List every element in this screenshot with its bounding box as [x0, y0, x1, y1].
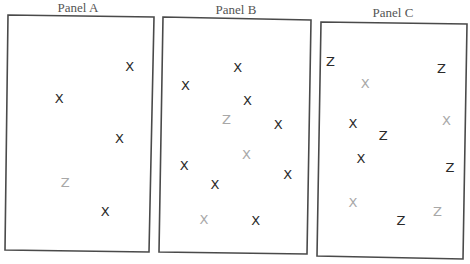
panel-c-frame — [317, 22, 467, 259]
panel-b-items: XXXZXXXXXXX — [180, 60, 292, 228]
panel-a-title: Panel A — [58, 0, 99, 15]
panel-c-item-x-light: X — [361, 76, 370, 91]
panel-b-item-x-dark: X — [251, 213, 260, 228]
panel-b-item-x-dark: X — [233, 60, 242, 75]
panel-b-item-x-dark: X — [274, 117, 283, 132]
panel-c-title: Panel C — [373, 5, 414, 20]
panel-b-item-x-dark: X — [210, 177, 219, 192]
panel-c-item-x-light: X — [442, 113, 451, 128]
panel-b-item-x-dark: X — [180, 158, 189, 173]
panel-c-item-z-dark: Z — [396, 213, 405, 228]
panel-c-item-z-light: Z — [433, 204, 442, 219]
panel-c-items: ZZXXXZXZXZZ — [326, 54, 455, 227]
panel-c-item-z-dark: Z — [446, 160, 455, 175]
panel-c: Panel C ZZXXXZXZXZZ — [317, 5, 467, 259]
three-panel-figure: Panel A XXXZX Panel B XXXZXXXXXXX Panel … — [0, 0, 470, 264]
panel-a-item-x-dark: X — [115, 131, 124, 146]
panel-b-item-x-light: X — [200, 212, 209, 227]
panel-b-frame — [159, 17, 311, 254]
panel-c-item-z-dark: Z — [379, 128, 388, 143]
panel-a-item-x-dark: X — [125, 59, 134, 74]
panel-a-item-z-light: Z — [61, 175, 70, 190]
panel-a: Panel A XXXZX — [5, 0, 154, 252]
panel-a-frame — [5, 15, 154, 252]
panel-a-item-x-dark: X — [101, 204, 110, 219]
figure-canvas: Panel A XXXZX Panel B XXXZXXXXXXX Panel … — [0, 0, 470, 264]
panel-b-item-x-light: X — [242, 147, 251, 162]
panel-b-item-x-dark: X — [243, 93, 252, 108]
panel-b: Panel B XXXZXXXXXXX — [159, 2, 311, 254]
panel-b-item-z-light: Z — [222, 112, 231, 127]
panel-c-item-x-dark: X — [348, 116, 357, 131]
panel-b-item-x-dark: X — [283, 167, 292, 182]
panel-a-item-x-dark: X — [55, 91, 64, 106]
panel-c-item-x-dark: X — [357, 151, 366, 166]
panel-c-item-z-dark: Z — [326, 54, 335, 69]
panel-a-items: XXXZX — [55, 59, 134, 219]
panel-b-title: Panel B — [216, 2, 257, 17]
panel-c-item-z-dark: Z — [437, 61, 446, 76]
panel-c-item-x-light: X — [349, 195, 358, 210]
panel-b-item-x-dark: X — [181, 78, 190, 93]
